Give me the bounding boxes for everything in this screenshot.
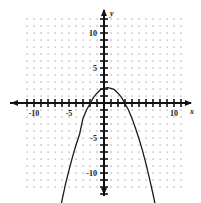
grid-dot	[111, 131, 112, 132]
grid-dot	[55, 75, 56, 76]
grid-dot	[69, 159, 70, 160]
grid-dot	[83, 152, 84, 153]
grid-dot	[62, 82, 63, 83]
grid-dot	[97, 159, 98, 160]
grid-dot	[118, 131, 119, 132]
grid-dot	[111, 145, 112, 146]
grid-dot	[76, 54, 77, 55]
grid-dot	[111, 180, 112, 181]
grid-dot	[76, 75, 77, 76]
grid-dot	[139, 89, 140, 90]
grid-dot	[97, 89, 98, 90]
grid-dot	[76, 173, 77, 174]
grid-dot	[90, 131, 91, 132]
grid-dot	[146, 117, 147, 118]
grid-dot	[167, 68, 168, 69]
grid-dot	[69, 47, 70, 48]
grid-dot	[41, 89, 42, 90]
grid-dot	[160, 152, 161, 153]
grid-dot	[76, 138, 77, 139]
grid-dot	[160, 166, 161, 167]
grid-dot	[41, 33, 42, 34]
grid-dot	[132, 96, 133, 97]
grid-dot	[125, 75, 126, 76]
grid-dot	[34, 33, 35, 34]
grid-dot	[55, 152, 56, 153]
grid-dot	[55, 180, 56, 181]
grid-dot	[55, 145, 56, 146]
x-tick-label: -5	[66, 109, 73, 118]
grid-dot	[174, 166, 175, 167]
grid-dot	[69, 145, 70, 146]
y-tick-label: 10	[89, 29, 97, 38]
grid-dot	[132, 187, 133, 188]
grid-dot	[83, 187, 84, 188]
grid-dot	[97, 19, 98, 20]
grid-dot	[69, 180, 70, 181]
grid-dot	[111, 40, 112, 41]
grid-dot	[146, 33, 147, 34]
grid-dot	[167, 173, 168, 174]
grid-dot	[139, 173, 140, 174]
grid-dot	[153, 40, 154, 41]
grid-dot	[139, 54, 140, 55]
grid-dot	[160, 117, 161, 118]
grid-dot	[27, 40, 28, 41]
grid-dot	[55, 68, 56, 69]
grid-dot	[153, 166, 154, 167]
grid-dot	[111, 75, 112, 76]
grid-dot	[27, 131, 28, 132]
grid-dot	[48, 82, 49, 83]
grid-dot	[153, 61, 154, 62]
grid-dot	[174, 96, 175, 97]
grid-dot	[111, 110, 112, 111]
grid-dot	[41, 110, 42, 111]
grid-dot	[174, 19, 175, 20]
grid-dot	[174, 180, 175, 181]
grid-dot	[97, 180, 98, 181]
grid-dot	[153, 110, 154, 111]
grid-dot	[62, 166, 63, 167]
grid-dot	[62, 180, 63, 181]
grid-dot	[90, 124, 91, 125]
grid-dot	[146, 47, 147, 48]
grid-dot	[160, 124, 161, 125]
grid-dot	[174, 159, 175, 160]
grid-dot	[111, 166, 112, 167]
grid-dot	[167, 89, 168, 90]
graph-container: -10-510105-5-10 y x	[0, 0, 201, 203]
grid-dot	[181, 54, 182, 55]
grid-dot	[125, 33, 126, 34]
grid-dot	[181, 110, 182, 111]
grid-dot	[83, 40, 84, 41]
grid-dot	[139, 152, 140, 153]
grid-dot	[132, 54, 133, 55]
grid-dot	[167, 75, 168, 76]
grid-dot	[27, 47, 28, 48]
grid-dot	[62, 68, 63, 69]
grid-dot	[83, 19, 84, 20]
grid-dot	[111, 33, 112, 34]
grid-dot	[27, 187, 28, 188]
grid-dot	[27, 54, 28, 55]
grid-dot	[48, 19, 49, 20]
grid-dot	[181, 138, 182, 139]
grid-dot	[181, 173, 182, 174]
grid-dot	[41, 159, 42, 160]
grid-dot	[181, 187, 182, 188]
grid-dot	[139, 26, 140, 27]
grid-dot	[125, 159, 126, 160]
grid-dot	[83, 131, 84, 132]
grid-dot	[90, 19, 91, 20]
grid-dot	[160, 89, 161, 90]
grid-dot	[125, 40, 126, 41]
grid-dot	[83, 68, 84, 69]
grid-dot	[111, 54, 112, 55]
grid-dot	[27, 145, 28, 146]
grid-dot	[167, 117, 168, 118]
grid-dot	[146, 75, 147, 76]
grid-dot	[153, 75, 154, 76]
grid-dot	[34, 159, 35, 160]
grid-dot	[146, 54, 147, 55]
grid-dot	[160, 68, 161, 69]
